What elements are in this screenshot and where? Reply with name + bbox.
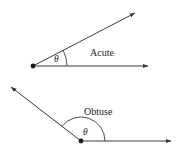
angle-diagram: θ Acute θ Obtuse [0,0,176,161]
obtuse-theta-label: θ [83,127,88,137]
acute-theta-label: θ [54,54,59,64]
obtuse-angled-ray [11,87,81,141]
acute-angle: θ Acute [31,13,148,68]
obtuse-angle: θ Obtuse [11,87,171,143]
obtuse-label: Obtuse [84,106,113,117]
acute-vertex-dot [31,64,36,69]
acute-angle-arc [63,50,67,66]
acute-label: Acute [90,47,114,58]
acute-angled-ray [33,13,135,66]
obtuse-vertex-dot [79,139,84,144]
